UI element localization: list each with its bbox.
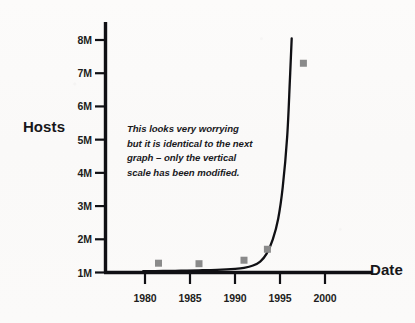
data-point-marker [264,246,271,253]
data-point-marker [196,260,203,267]
hosts-vs-date-chart: Hosts Date 1M2M3M4M5M6M7M8M This looks v… [0,0,415,323]
axis-lines [104,22,372,273]
x-axis-ticks [145,274,325,284]
x-axis-tick-label: 1995 [258,292,302,304]
data-point-marker [300,60,307,67]
data-point-marker [241,257,248,264]
x-axis-tick-label: 2000 [303,292,347,304]
trend-curve [143,38,292,271]
x-axis-tick-label: 1980 [123,292,167,304]
data-point-marker [155,260,162,267]
series-line-group [143,38,292,271]
plot-area [0,0,415,323]
y-axis-ticks [95,40,105,273]
x-axis-tick-label: 1985 [168,292,212,304]
x-axis-tick-label: 1990 [213,292,257,304]
